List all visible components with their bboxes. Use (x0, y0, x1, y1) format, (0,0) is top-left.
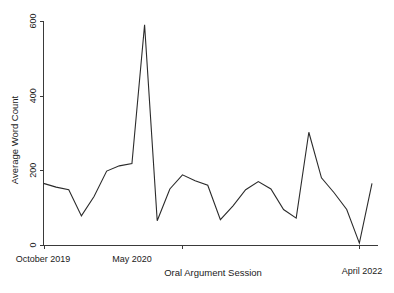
chart-figure: 0 200 400 600 Average Word Count October… (0, 0, 394, 293)
chart-background (0, 0, 394, 293)
x-tick-label-end: April 2022 (342, 266, 383, 276)
x-tick-label-start: October 2019 (16, 254, 71, 264)
y-axis-title: Average Word Count (9, 95, 20, 184)
y-tick-label-0: 0 (28, 242, 38, 247)
y-tick-label-200: 200 (28, 163, 38, 178)
x-tick-label-mid: May 2020 (112, 254, 152, 264)
x-axis-title: Oral Argument Session (164, 267, 262, 278)
y-tick-label-400: 400 (28, 88, 38, 103)
y-tick-label-600: 600 (28, 13, 38, 28)
line-chart: 0 200 400 600 Average Word Count October… (0, 0, 394, 293)
